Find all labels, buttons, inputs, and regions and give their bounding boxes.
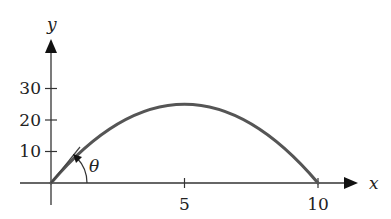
projectile-trajectory-diagram: 5 10 10 20 30 x y θ — [0, 0, 391, 219]
x-tick-label-10: 10 — [307, 194, 329, 214]
angle-arc — [77, 158, 87, 183]
x-axis-label: x — [369, 173, 379, 193]
x-tick-label-5: 5 — [179, 194, 190, 214]
launch-tangent-line — [51, 147, 80, 183]
y-tick-label-10: 10 — [19, 141, 41, 161]
y-axis-arrow-icon — [45, 39, 57, 53]
angle-label-theta: θ — [89, 156, 99, 176]
y-tick-label-20: 20 — [19, 110, 41, 130]
x-axis-arrow-icon — [344, 177, 358, 189]
y-axis-label: y — [46, 14, 57, 34]
y-tick-label-30: 30 — [19, 78, 41, 98]
